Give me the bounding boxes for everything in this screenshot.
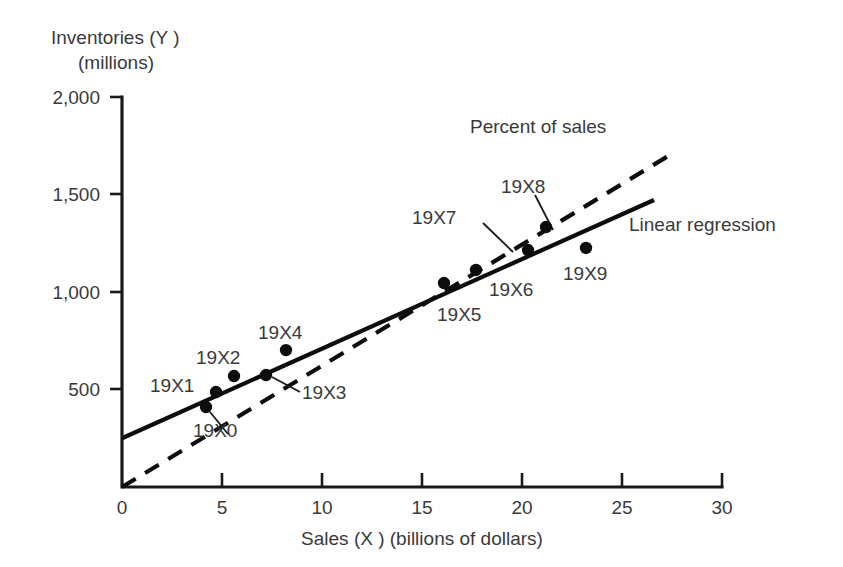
x-tick-label-15: 15 bbox=[411, 497, 432, 518]
point-label-19X9: 19X9 bbox=[563, 263, 607, 284]
y-tick-label-1000: 1,000 bbox=[52, 282, 100, 303]
x-tick-label-20: 20 bbox=[511, 497, 532, 518]
percent-of-sales-label: Percent of sales bbox=[470, 116, 606, 137]
chart-container: Inventories (Y ) (millions) 2,000 1,500 … bbox=[0, 0, 843, 567]
x-axis-title: Sales (X ) (billions of dollars) bbox=[301, 528, 543, 549]
data-point-19X6 bbox=[470, 264, 482, 276]
y-axis-title-line1: Inventories (Y ) bbox=[51, 27, 179, 48]
x-tick-label-10: 10 bbox=[311, 497, 332, 518]
point-label-19X1: 19X1 bbox=[150, 375, 194, 396]
data-point-19X2 bbox=[228, 370, 240, 382]
point-label-19X2: 19X2 bbox=[196, 347, 240, 368]
point-label-19X0: 19X0 bbox=[193, 420, 237, 441]
y-axis-ticks bbox=[110, 97, 122, 389]
y-tick-label-2000: 2,000 bbox=[52, 87, 100, 108]
point-label-19X6: 19X6 bbox=[489, 279, 533, 300]
x-tick-label-5: 5 bbox=[217, 497, 228, 518]
point-label-19X8: 19X8 bbox=[501, 176, 545, 197]
data-point-19X0 bbox=[200, 401, 212, 413]
data-point-19X4 bbox=[280, 344, 292, 356]
data-point-19X1 bbox=[210, 386, 222, 398]
x-axis-ticks bbox=[222, 473, 722, 487]
y-axis-title-line2: (millions) bbox=[78, 52, 154, 73]
point-label-19X7: 19X7 bbox=[412, 207, 456, 228]
data-point-19X7 bbox=[522, 244, 534, 256]
y-tick-label-1500: 1,500 bbox=[52, 184, 100, 205]
data-point-19X5 bbox=[438, 277, 450, 289]
data-point-19X8 bbox=[540, 221, 552, 233]
point-label-19X3: 19X3 bbox=[302, 382, 346, 403]
leader-lines bbox=[210, 195, 553, 434]
x-tick-label-30: 30 bbox=[711, 497, 732, 518]
x-tick-label-0: 0 bbox=[117, 497, 128, 518]
data-point-19X3 bbox=[260, 369, 272, 381]
y-tick-label-500: 500 bbox=[68, 379, 100, 400]
data-point-19X9 bbox=[580, 242, 592, 254]
point-label-19X5: 19X5 bbox=[437, 304, 481, 325]
linear-regression-label: Linear regression bbox=[629, 214, 776, 235]
point-label-19X4: 19X4 bbox=[258, 322, 303, 343]
leader-19X7 bbox=[483, 223, 513, 252]
x-tick-label-25: 25 bbox=[611, 497, 632, 518]
